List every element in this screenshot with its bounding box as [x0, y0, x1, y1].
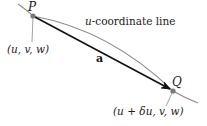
vector-a-label: a: [96, 52, 103, 65]
point-q-dot: [170, 88, 175, 93]
curve-label-text: -coordinate line: [92, 15, 176, 27]
p-coords-label: (u, v, w): [7, 43, 49, 55]
point-p-dot: [30, 13, 35, 18]
p-leader-line: [32, 16, 33, 42]
point-q-label: Q: [172, 75, 182, 89]
u-coordinate-diagram: P Q (u, v, w) (u + δu, v, w) u-coordinat…: [0, 0, 207, 126]
q-coords-label: (u + δu, v, w): [113, 105, 184, 117]
point-p-label: P: [27, 0, 37, 14]
curve-label: u-coordinate line: [85, 15, 175, 27]
